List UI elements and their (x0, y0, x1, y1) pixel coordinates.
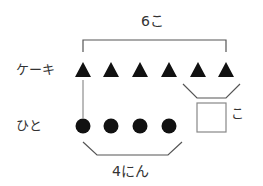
person-circle-icon (104, 119, 119, 134)
people-row-marks (76, 119, 177, 134)
total-bracket (83, 40, 226, 52)
remainder-bracket (183, 84, 240, 98)
total-cakes-label: 6こ (141, 14, 164, 28)
cake-triangle-icon (190, 62, 206, 77)
person-circle-icon (76, 119, 91, 134)
person-circle-icon (133, 119, 148, 134)
cake-triangle-icon (132, 62, 148, 77)
people-count-label: 4にん (112, 164, 149, 178)
answer-box[interactable] (197, 103, 226, 132)
tape-diagram (0, 0, 263, 186)
cake-row-label: ケーキ (16, 63, 55, 76)
cake-row-marks (75, 62, 234, 77)
people-bracket (83, 142, 182, 155)
cake-triangle-icon (103, 62, 119, 77)
person-circle-icon (162, 119, 177, 134)
cake-triangle-icon (161, 62, 177, 77)
cake-triangle-icon (218, 62, 234, 77)
cake-triangle-icon (75, 62, 91, 77)
people-row-label: ひと (16, 119, 42, 132)
unknown-unit-label: こ (231, 107, 244, 120)
